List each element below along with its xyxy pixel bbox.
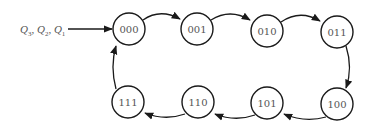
edge-110-111 [145, 113, 185, 117]
state-111: 111 [112, 86, 144, 118]
svg-text:000: 000 [119, 24, 138, 35]
svg-text:011: 011 [327, 27, 346, 38]
svg-text:100: 100 [327, 99, 346, 110]
svg-text:110: 110 [188, 97, 207, 108]
edge-111-000 [113, 46, 116, 89]
state-000: 000 [113, 13, 145, 45]
input-label: Q3, Q2, Q1 [20, 23, 66, 38]
state-011: 011 [321, 16, 353, 48]
svg-text:010: 010 [257, 26, 276, 37]
state-101: 101 [251, 87, 283, 119]
edge-010-011 [281, 15, 320, 22]
edge-011-100 [346, 46, 350, 88]
state-100: 100 [321, 88, 353, 120]
svg-text:101: 101 [257, 98, 276, 109]
edge-101-110 [215, 114, 255, 118]
edge-000-001 [143, 14, 180, 20]
svg-text:111: 111 [118, 97, 137, 108]
state-diagram: Q3, Q2, Q1 000 001 010 011 100 101 110 1… [0, 0, 371, 129]
state-001: 001 [181, 13, 213, 45]
svg-text:001: 001 [187, 24, 206, 35]
state-010: 010 [251, 15, 283, 47]
state-110: 110 [182, 86, 214, 118]
edge-001-010 [211, 14, 250, 20]
edge-100-101 [284, 114, 326, 119]
